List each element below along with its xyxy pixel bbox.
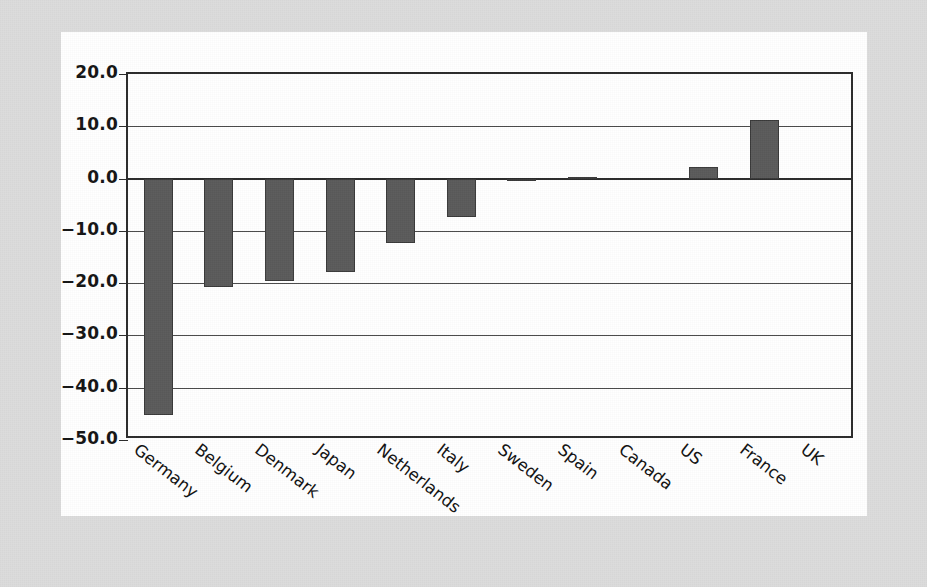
x-tick-label: Canada: [615, 440, 676, 494]
bar: [689, 167, 718, 179]
y-tick-label: −20.0: [61, 271, 118, 291]
gridline: [128, 388, 851, 389]
x-tick-label: Germany: [131, 440, 202, 502]
bar: [386, 179, 415, 244]
gridline: [128, 335, 851, 336]
y-tick-mark: [119, 388, 128, 389]
x-tick-label: Spain: [555, 440, 603, 483]
bar: [265, 179, 294, 281]
bar: [447, 179, 476, 217]
x-tick-label: US: [676, 440, 705, 469]
y-tick-label: 20.0: [75, 62, 118, 82]
x-tick-label: Denmark: [252, 440, 323, 502]
gridline: [128, 283, 851, 284]
bar: [507, 179, 536, 182]
y-axis-labels: 20.010.00.0−10.0−20.0−30.0−40.0−50.0: [52, 72, 118, 438]
y-tick-mark: [119, 335, 128, 336]
y-tick-label: −10.0: [61, 219, 118, 239]
x-tick-label: UK: [797, 440, 827, 469]
x-tick-label: France: [736, 440, 791, 489]
x-tick-label: Japan: [312, 440, 360, 483]
y-tick-mark: [119, 126, 128, 127]
gridline: [128, 231, 851, 232]
y-tick-mark: [119, 179, 128, 180]
x-tick-label: Italy: [434, 440, 474, 477]
y-tick-label: −40.0: [61, 376, 118, 396]
y-tick-mark: [119, 74, 128, 75]
zero-line: [128, 178, 851, 180]
y-tick-label: −30.0: [61, 323, 118, 343]
plot-area: [126, 72, 853, 438]
y-tick-mark: [119, 231, 128, 232]
scanned-page: 20.010.00.0−10.0−20.0−30.0−40.0−50.0 Ger…: [0, 0, 927, 587]
x-tick-label: Sweden: [494, 440, 557, 495]
bar: [204, 179, 233, 288]
bar: [750, 120, 779, 179]
bar: [144, 179, 173, 415]
y-tick-label: 10.0: [75, 114, 118, 134]
x-axis-labels: GermanyBelgiumDenmarkJapanNetherlandsIta…: [126, 440, 853, 530]
y-tick-label: 0.0: [87, 167, 118, 187]
x-tick-label: Belgium: [191, 440, 256, 497]
y-tick-label: −50.0: [61, 428, 118, 448]
bar: [326, 179, 355, 272]
bar: [568, 177, 597, 179]
gridline: [128, 126, 851, 127]
y-tick-mark: [119, 283, 128, 284]
